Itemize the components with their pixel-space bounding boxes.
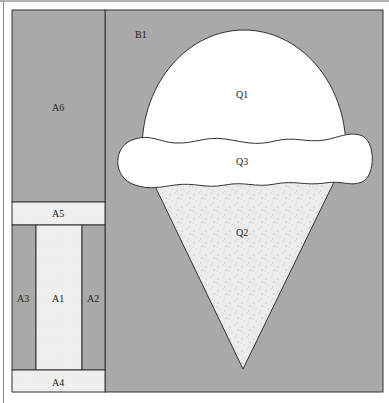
label-Q3: Q3 [236,156,248,167]
label-A6: A6 [52,102,64,113]
label-A2: A2 [87,293,99,304]
label-A5: A5 [52,208,64,219]
label-B1: B1 [135,29,147,40]
quilt-diagram: B1 A6 A5 A3 A1 A2 A4 Q1 Q3 Q2 [0,0,389,403]
label-A4: A4 [52,377,64,388]
label-Q2: Q2 [236,227,248,238]
label-A3: A3 [17,293,29,304]
label-A1: A1 [52,293,64,304]
label-Q1: Q1 [236,89,248,100]
